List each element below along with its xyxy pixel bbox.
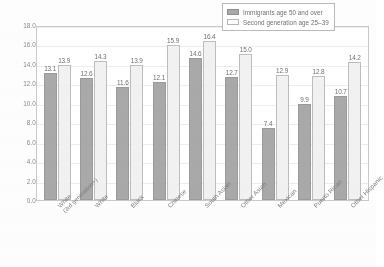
bar: 14.6: [189, 58, 202, 200]
bar: 12.9: [276, 75, 289, 200]
bar-group: 9.912.8: [293, 27, 329, 200]
y-axis-tick-label: 18.0: [2, 22, 36, 29]
x-tick-cell: Other Asian: [221, 202, 258, 266]
bar-group: 12.715.0: [221, 27, 257, 200]
bar: 15.9: [167, 45, 180, 200]
y-axis-tick-label: 10.0: [2, 100, 36, 107]
legend-item: Immigrants age 50 and over: [227, 7, 329, 17]
bar-value-label: 15.0: [240, 46, 252, 53]
x-tick-cell: Other Hispanic: [331, 202, 368, 266]
bar: 13.9: [130, 65, 143, 200]
y-axis-tick-label: 0.0: [2, 197, 36, 204]
bar: 16.4: [203, 41, 216, 200]
legend-item-label: Second generation age 25–39: [243, 19, 329, 26]
bar: 15.0: [239, 54, 252, 200]
bar-group: 12.614.3: [75, 27, 111, 200]
bar: 14.2: [348, 62, 361, 200]
bar-value-label: 15.9: [167, 37, 179, 44]
bar-value-label: 12.1: [153, 74, 165, 81]
bar-value-label: 14.2: [349, 54, 361, 61]
bar-value-label: 14.6: [189, 50, 201, 57]
x-tick-cell: Puerto Rican: [294, 202, 331, 266]
y-axis-tick-label: 12.0: [2, 80, 36, 87]
bar-group: 12.115.9: [148, 27, 184, 200]
x-axis-tick-labels: White(3rd generation+)WhiteBlackChineseS…: [36, 202, 369, 266]
bar-value-label: 13.9: [131, 57, 143, 64]
bar: 12.1: [153, 82, 166, 200]
bar-value-label: 9.9: [300, 96, 309, 103]
bar-group: 7.412.9: [257, 27, 293, 200]
bar: 9.9: [298, 104, 311, 200]
bar-value-label: 12.9: [276, 67, 288, 74]
legend-item-label: Immigrants age 50 and over: [243, 9, 323, 16]
bar: 13.9: [58, 65, 71, 200]
bar-value-label: 12.8: [312, 68, 324, 75]
bar: 13.1: [44, 73, 57, 200]
y-axis-tick-label: 4.0: [2, 158, 36, 165]
legend-item: Second generation age 25–39: [227, 17, 329, 27]
legend-swatch-icon: [227, 19, 239, 25]
bar: 12.8: [312, 76, 325, 200]
bar-value-label: 12.7: [226, 69, 238, 76]
bar-value-label: 14.3: [94, 53, 106, 60]
bar-value-label: 7.4: [264, 120, 273, 127]
bar-value-label: 13.1: [44, 65, 56, 72]
bar-group: 11.613.9: [112, 27, 148, 200]
chart-legend: Immigrants age 50 and over Second genera…: [222, 3, 335, 31]
bar-value-label: 13.9: [58, 57, 70, 64]
bar-value-label: 12.6: [80, 70, 92, 77]
legend-swatch-icon: [227, 9, 239, 15]
y-axis-tick-label: 8.0: [2, 119, 36, 126]
bar-group: 13.113.9: [39, 27, 75, 200]
bar-value-label: 16.4: [203, 33, 215, 40]
y-axis-tick-label: 14.0: [2, 61, 36, 68]
bar-group: 10.714.2: [330, 27, 366, 200]
y-axis-tick-label: 16.0: [2, 41, 36, 48]
x-tick-cell: White(3rd generation+): [38, 202, 75, 266]
bar-group: 14.616.4: [184, 27, 220, 200]
bar-value-label: 10.7: [335, 88, 347, 95]
bar-value-label: 11.6: [117, 79, 129, 86]
x-tick-cell: South Asian: [184, 202, 221, 266]
x-tick-cell: White: [75, 202, 112, 266]
x-tick-cell: Mexican: [257, 202, 294, 266]
y-axis-tick-label: 2.0: [2, 178, 36, 185]
bar: 11.6: [116, 87, 129, 200]
y-axis-tick-label: 6.0: [2, 139, 36, 146]
x-tick-cell: Black: [111, 202, 148, 266]
x-tick-cell: Chinese: [148, 202, 185, 266]
